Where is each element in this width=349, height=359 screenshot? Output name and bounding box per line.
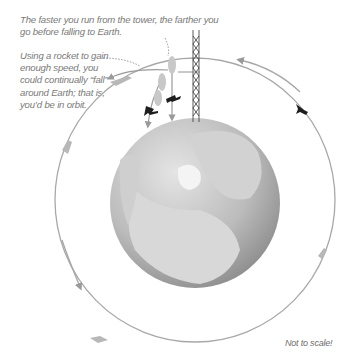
orbit-diagram: [0, 0, 349, 359]
falling-person-icon: [144, 95, 181, 116]
radio-tower: [178, 30, 200, 122]
caption-leader-lines: [103, 38, 169, 66]
earth-globe: [110, 118, 280, 288]
orbiting-person-icon: [296, 104, 308, 115]
